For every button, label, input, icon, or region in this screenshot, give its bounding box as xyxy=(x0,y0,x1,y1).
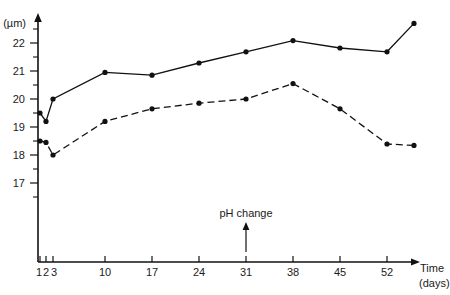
y-axis-unit-label: (µm) xyxy=(3,17,26,29)
x-axis-title: Time xyxy=(420,262,444,274)
y-axis-ticks xyxy=(30,29,38,197)
y-axis-arrow-icon xyxy=(34,13,42,22)
series-upper-solid xyxy=(37,21,416,124)
data-point xyxy=(384,141,389,146)
data-point xyxy=(149,106,154,111)
chart-container: 17 18 19 20 21 22 (µm) 1 2 3 10 17 24 xyxy=(0,0,450,295)
data-point xyxy=(196,101,201,106)
x-axis-ticks xyxy=(40,256,387,262)
x-axis-arrow-icon xyxy=(411,258,420,265)
series-line-dashed xyxy=(40,84,414,155)
x-axis-unit-label: (days) xyxy=(419,277,450,289)
data-point xyxy=(384,49,389,54)
x-tick-label: 24 xyxy=(193,266,205,278)
x-tick-label: 38 xyxy=(287,266,299,278)
x-tick-label: 45 xyxy=(334,266,346,278)
ph-change-label: pH change xyxy=(219,207,272,219)
data-point xyxy=(196,60,201,65)
data-point xyxy=(50,152,55,157)
data-point xyxy=(43,140,48,145)
y-tick-label: 21 xyxy=(13,65,25,77)
y-tick-label: 18 xyxy=(13,149,25,161)
x-tick-label: 1 xyxy=(36,266,42,278)
x-axis-tick-labels: 1 2 3 10 17 24 31 38 45 52 59 xyxy=(36,266,393,278)
data-point xyxy=(290,81,295,86)
series-line-solid xyxy=(40,23,414,121)
series-lower-dashed xyxy=(37,81,416,158)
y-tick-label: 17 xyxy=(13,177,25,189)
data-point xyxy=(411,143,416,148)
y-tick-label: 20 xyxy=(13,93,25,105)
data-point xyxy=(50,96,55,101)
x-tick-label: 2 xyxy=(43,266,49,278)
data-point xyxy=(37,138,42,143)
data-point xyxy=(337,106,342,111)
y-tick-label: 22 xyxy=(13,37,25,49)
ph-change-annotation: pH change xyxy=(219,207,272,252)
data-point xyxy=(243,96,248,101)
y-tick-label: 19 xyxy=(13,121,25,133)
data-point xyxy=(102,70,107,75)
data-point xyxy=(37,110,42,115)
x-tick-label: 52 xyxy=(381,266,393,278)
data-point xyxy=(102,119,107,124)
data-point xyxy=(149,73,154,78)
ph-change-arrow-icon xyxy=(243,222,250,230)
line-chart: 17 18 19 20 21 22 (µm) 1 2 3 10 17 24 xyxy=(0,0,450,295)
y-axis-tick-labels: 17 18 19 20 21 22 xyxy=(13,37,25,189)
x-tick-label: 17 xyxy=(146,266,158,278)
axes xyxy=(34,13,420,266)
data-point xyxy=(290,38,295,43)
x-tick-label: 10 xyxy=(99,266,111,278)
data-point xyxy=(243,49,248,54)
x-tick-label: 31 xyxy=(240,266,252,278)
data-point xyxy=(337,45,342,50)
data-point xyxy=(43,119,48,124)
x-tick-label: 3 xyxy=(51,266,57,278)
data-point xyxy=(411,21,416,26)
